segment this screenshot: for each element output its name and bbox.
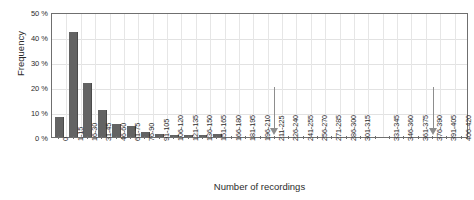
x-tick-label: 31-45 — [104, 123, 113, 141]
x-tick-mark — [360, 136, 361, 139]
x-axis-tick-labels: 01-1516-3031-4546-6061-7576-9091-105106-… — [51, 139, 468, 183]
x-tick-mark — [418, 136, 419, 139]
x-tick-label: 136-150 — [205, 115, 214, 141]
bar-series — [52, 14, 467, 137]
x-tick-mark — [331, 136, 332, 139]
x-tick-mark — [216, 136, 217, 139]
x-tick-mark — [116, 136, 117, 139]
x-tick-label: 0 — [61, 137, 70, 141]
x-tick-label: 406-420 — [464, 115, 473, 141]
x-tick-mark — [231, 136, 232, 139]
x-tick-mark — [260, 136, 261, 139]
x-tick-mark — [346, 136, 347, 139]
x-tick-mark — [389, 136, 390, 139]
x-tick-label: 91-105 — [162, 119, 171, 141]
y-axis-tick-labels: 0 %10 %20 %30 %40 %50 % — [18, 0, 48, 200]
bar — [55, 117, 64, 137]
y-tick-label: 50 % — [18, 9, 48, 18]
x-tick-label: 391-405 — [449, 115, 458, 141]
x-tick-label: 346-360 — [406, 115, 415, 141]
x-tick-label: 61-75 — [133, 123, 142, 141]
x-tick-mark — [432, 136, 433, 139]
x-tick-label: 16-30 — [90, 123, 99, 141]
y-tick-label: 10 % — [18, 109, 48, 118]
x-tick-label: 181-195 — [248, 115, 257, 141]
x-tick-label: 361-375 — [421, 115, 430, 141]
x-tick-mark — [87, 136, 88, 139]
arrow-shaft — [433, 87, 434, 129]
x-tick-mark — [73, 136, 74, 139]
x-tick-label: 211-225 — [277, 115, 286, 141]
x-tick-label: 1-15 — [76, 127, 85, 141]
x-tick-label: 106-120 — [176, 115, 185, 141]
x-tick-mark — [159, 136, 160, 139]
x-tick-mark — [188, 136, 189, 139]
x-tick-mark — [375, 136, 376, 139]
x-tick-mark — [446, 136, 447, 139]
y-tick-label: 40 % — [18, 34, 48, 43]
x-tick-label: 226-240 — [291, 115, 300, 141]
x-tick-label: 376-390 — [435, 115, 444, 141]
x-tick-label: 166-180 — [234, 115, 243, 141]
x-tick-mark — [303, 136, 304, 139]
x-tick-mark — [245, 136, 246, 139]
x-tick-mark — [173, 136, 174, 139]
histogram-figure: Frequency 0 %10 %20 %30 %40 %50 % 01-151… — [0, 0, 474, 200]
x-tick-mark — [202, 136, 203, 139]
x-tick-mark — [58, 136, 59, 139]
y-tick-label: 30 % — [18, 59, 48, 68]
y-tick-label: 20 % — [18, 84, 48, 93]
x-tick-mark — [403, 136, 404, 139]
x-tick-label: 301-315 — [363, 115, 372, 141]
x-tick-mark — [130, 136, 131, 139]
x-tick-label: 196-210 — [263, 115, 272, 141]
x-tick-mark — [461, 136, 462, 139]
y-tick-label: 0 % — [18, 134, 48, 143]
x-tick-label: 286-300 — [349, 115, 358, 141]
x-tick-label: 331-345 — [392, 115, 401, 141]
x-tick-label: 76-90 — [147, 123, 156, 141]
x-tick-label: 241-255 — [306, 115, 315, 141]
x-axis-title: Number of recordings — [51, 181, 468, 192]
x-tick-label: 271-285 — [334, 115, 343, 141]
x-tick-mark — [274, 136, 275, 139]
x-tick-label: 121-135 — [191, 115, 200, 141]
x-tick-mark — [317, 136, 318, 139]
x-tick-mark — [144, 136, 145, 139]
arrow-shaft — [274, 87, 275, 129]
bar — [69, 32, 78, 138]
x-tick-label: 256-270 — [320, 115, 329, 141]
x-tick-mark — [288, 136, 289, 139]
x-tick-label: 151-165 — [219, 115, 228, 141]
x-tick-label: 46-60 — [119, 123, 128, 141]
x-tick-mark — [101, 136, 102, 139]
